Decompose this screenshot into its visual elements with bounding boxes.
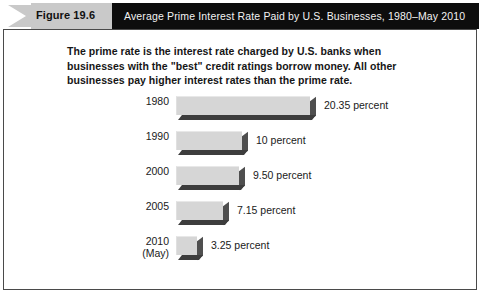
- bar-face: [176, 201, 223, 220]
- figure-container: Figure 19.6 Average Prime Interest Rate …: [0, 0, 482, 295]
- bar-row: 2000 9.50 percent: [4, 166, 476, 200]
- bar-face: [176, 166, 239, 185]
- bar-value-label: 10 percent: [256, 134, 306, 146]
- chevron-right-icon: [3, 3, 33, 29]
- bar-row: 1990 10 percent: [4, 131, 476, 165]
- bar-row: 2005 7.15 percent: [4, 201, 476, 235]
- bar-year-text: 2005: [146, 200, 169, 212]
- bar-year-label: 1990: [79, 131, 169, 143]
- bar-bottom-shadow: [178, 220, 229, 225]
- bar-value-label: 20.35 percent: [324, 99, 388, 111]
- bar-year-label: 2005: [79, 201, 169, 213]
- bar-face: [176, 236, 197, 255]
- figure-body-panel: The prime rate is the interest rate char…: [3, 29, 477, 290]
- bar-row: 1980 20.35 percent: [4, 96, 476, 130]
- figure-number-label: Figure 19.6: [36, 9, 95, 21]
- bar-bottom-shadow: [178, 255, 203, 260]
- bar-year-text: 1990: [146, 130, 169, 142]
- bar-bottom-shadow: [178, 115, 316, 120]
- bar-bottom-shadow: [178, 150, 248, 155]
- figure-description: The prime rate is the interest rate char…: [67, 44, 437, 88]
- bar-year-text: 2000: [146, 165, 169, 177]
- bar-value-label: 3.25 percent: [211, 239, 269, 251]
- bar-year-label: 1980: [79, 96, 169, 108]
- figure-number-tab: Figure 19.6: [3, 3, 112, 29]
- figure-title: Average Prime Interest Rate Paid by U.S.…: [124, 10, 465, 22]
- bar-bottom-shadow: [178, 185, 245, 190]
- bar-value-label: 7.15 percent: [237, 204, 295, 216]
- bar-year-text: 1980: [146, 95, 169, 107]
- bar-face: [176, 96, 310, 115]
- bar-year-text: 2010: [146, 235, 169, 247]
- bar-row: 2010 (May) 3.25 percent: [4, 236, 476, 270]
- figure-header-bar: Figure 19.6 Average Prime Interest Rate …: [3, 3, 479, 29]
- bar-year-sub: (May): [79, 248, 169, 260]
- prime-rate-bar-chart: 1980 20.35 percent 1990: [4, 96, 476, 286]
- bar-value-label: 9.50 percent: [253, 169, 311, 181]
- bar-year-label: 2010 (May): [79, 236, 169, 259]
- bar-face: [176, 131, 242, 150]
- bar-year-label: 2000: [79, 166, 169, 178]
